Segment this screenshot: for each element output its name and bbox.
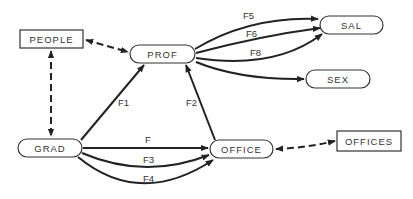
node-sal: SAL — [320, 16, 383, 34]
edge-f2: F2 — [186, 65, 215, 140]
node-offices: OFFICES — [337, 131, 401, 151]
node-sex: SEX — [306, 70, 370, 88]
edge-label-f1: F1 — [118, 97, 129, 108]
edge-label-f2: F2 — [186, 97, 197, 108]
edge-label-f4: F4 — [143, 173, 154, 184]
node-label-people: PEOPLE — [29, 34, 73, 45]
node-prof: PROF — [130, 45, 195, 63]
edge-f1: F1 — [81, 65, 144, 140]
edge-prof-sex — [196, 62, 304, 79]
edge-people-prof — [86, 40, 128, 52]
node-label-sex: SEX — [327, 74, 349, 85]
node-label-grad: GRAD — [34, 143, 65, 154]
edge-f: F — [83, 134, 208, 148]
node-grad: GRAD — [18, 139, 82, 157]
edge-label-f8: F8 — [250, 47, 261, 58]
edge-f3: F3 — [82, 153, 209, 167]
edge-label-f6: F6 — [246, 28, 257, 39]
edge-office-offices — [276, 141, 335, 149]
edge-label-f5: F5 — [243, 10, 254, 21]
node-people: PEOPLE — [20, 30, 83, 48]
node-label-prof: PROF — [147, 49, 177, 60]
diagram-canvas: F5 F6 F8 F1 F2 F F3 F4 PEOPLE PROF — [0, 0, 413, 199]
node-label-office: OFFICE — [221, 144, 262, 155]
node-label-sal: SAL — [341, 20, 362, 31]
node-label-offices: OFFICES — [345, 136, 393, 147]
node-office: OFFICE — [210, 140, 273, 158]
edge-label-f: F — [145, 134, 151, 145]
edge-label-f3: F3 — [143, 154, 154, 165]
